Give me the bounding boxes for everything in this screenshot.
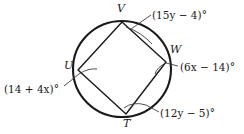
circle (73, 21, 171, 117)
angle-label-u: (14 + 4x)° (4, 84, 59, 95)
leader-line-angle-u (64, 74, 79, 86)
vertex-label-w: W (170, 44, 181, 55)
angle-label-t: (12y − 5)° (160, 108, 215, 119)
vertex-label-v: V (117, 3, 125, 14)
angle-label-v: (15y − 4)° (152, 10, 207, 21)
vertex-label-u: U (64, 60, 73, 71)
geometry-figure: V W T U (15y − 4)° (6x − 14)° (12y − 5)°… (0, 0, 244, 134)
inscribed-quadrilateral (78, 22, 166, 114)
leader-arc-angle-t (124, 104, 146, 108)
vertex-label-t: T (123, 118, 130, 129)
angle-label-w: (6x − 14)° (180, 62, 235, 73)
leader-line-angle-w (166, 63, 178, 66)
